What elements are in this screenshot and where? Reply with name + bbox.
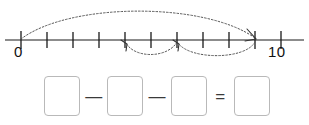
answer-box-3[interactable] (171, 76, 207, 116)
number-line-start-label: 0 (14, 44, 23, 59)
equation-row: — — = (44, 75, 270, 117)
worksheet-number-line-diagram: 0 10 — — = (0, 0, 309, 125)
operator-equals: = (210, 88, 230, 105)
jump-second-arc (121, 40, 177, 55)
number-line-end-label: 10 (268, 44, 286, 59)
operator-minus-1: — (84, 88, 104, 105)
answer-box-1[interactable] (44, 76, 80, 116)
jump-total-arc (21, 11, 256, 41)
answer-box-4[interactable] (234, 76, 270, 116)
jump-first-arc (173, 40, 255, 56)
answer-box-2[interactable] (107, 76, 143, 116)
operator-minus-2: — (147, 88, 167, 105)
number-line-graphic (0, 0, 309, 70)
